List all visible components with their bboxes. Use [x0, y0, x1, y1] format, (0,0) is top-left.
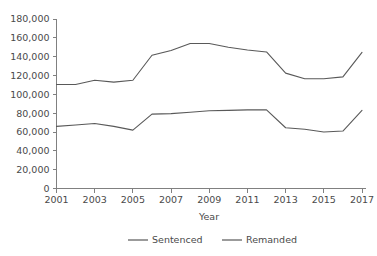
y-axis-tick-label: 80,000	[16, 108, 49, 119]
x-axis-tick-label: 2005	[121, 194, 145, 205]
x-axis-title: Year	[198, 211, 219, 222]
y-axis-tick-label: 60,000	[16, 126, 49, 137]
x-axis-tick-label: 2003	[83, 194, 107, 205]
series-line-remanded	[57, 43, 363, 84]
x-axis-tick-label: 2011	[235, 194, 259, 205]
x-axis-tick-label: 2017	[350, 194, 374, 205]
y-axis-tick-label: 180,000	[10, 13, 49, 24]
x-axis-tick-label: 2013	[274, 194, 298, 205]
y-axis-tick-label: 20,000	[16, 164, 49, 175]
chart-legend: SentencedRemanded	[128, 234, 297, 245]
x-axis-tick-label: 2009	[197, 194, 221, 205]
x-axis-tick-label: 2001	[44, 194, 68, 205]
y-axis-tick-label: 0	[43, 183, 49, 194]
y-axis-tick-label: 140,000	[10, 51, 49, 62]
series-line-sentenced	[57, 110, 363, 132]
y-axis-tick-label: 160,000	[10, 32, 49, 43]
legend-label-remanded[interactable]: Remanded	[246, 234, 297, 245]
line-chart: 020,00040,00060,00080,000100,000120,0001…	[0, 0, 377, 256]
y-axis-tick-label: 40,000	[16, 145, 49, 156]
x-axis: 200120032005200720092011201320152017	[44, 189, 374, 205]
chart-canvas: 020,00040,00060,00080,000100,000120,0001…	[0, 0, 377, 256]
y-axis: 020,00040,00060,00080,000100,000120,0001…	[10, 13, 56, 194]
y-axis-tick-label: 100,000	[10, 89, 49, 100]
legend-label-sentenced[interactable]: Sentenced	[152, 234, 203, 245]
data-series-group	[57, 43, 363, 132]
x-axis-tick-label: 2007	[159, 194, 183, 205]
x-axis-tick-label: 2015	[312, 194, 336, 205]
y-axis-tick-label: 120,000	[10, 70, 49, 81]
